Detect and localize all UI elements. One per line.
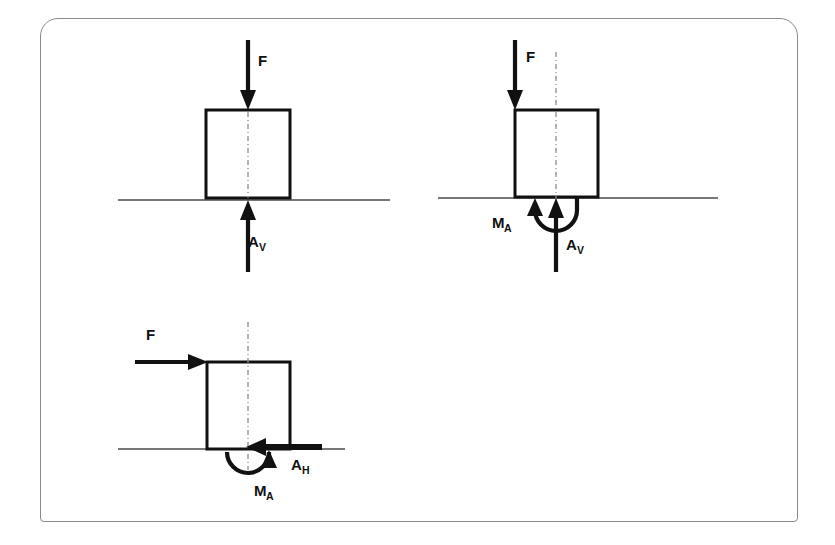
- free-body-diagram-canvas: F A V F: [0, 0, 835, 545]
- diagram-3-group: F A H M A: [118, 322, 345, 502]
- reaction-av-label: A: [248, 233, 259, 250]
- body-rect: [207, 362, 290, 449]
- reaction-av-subscript: V: [577, 244, 584, 256]
- reaction-av-label: A: [566, 236, 577, 253]
- force-f-label: F: [146, 326, 155, 343]
- force-f-label: F: [526, 48, 535, 65]
- body-rect: [515, 110, 598, 197]
- force-f-arrow: [507, 40, 523, 110]
- reaction-ah-subscript: H: [302, 464, 310, 476]
- moment-ma-label: M: [254, 482, 267, 499]
- moment-ma-arc: [227, 450, 277, 473]
- reaction-av-arrow: [548, 198, 564, 272]
- moment-ma-subscript: A: [504, 222, 512, 234]
- force-f-label: F: [258, 52, 267, 69]
- figure-root: F A V F: [0, 0, 835, 545]
- force-f-arrow: [135, 354, 208, 370]
- diagram-1-group: F A V: [118, 40, 390, 272]
- diagram-2-group: F A V M A: [438, 40, 718, 272]
- force-f-arrow: [240, 40, 256, 110]
- reaction-ah-arrow: [246, 438, 322, 456]
- moment-ma-subscript: A: [266, 490, 274, 502]
- reaction-av-subscript: V: [259, 241, 266, 253]
- moment-ma-label: M: [492, 214, 505, 231]
- reaction-ah-label: A: [291, 456, 302, 473]
